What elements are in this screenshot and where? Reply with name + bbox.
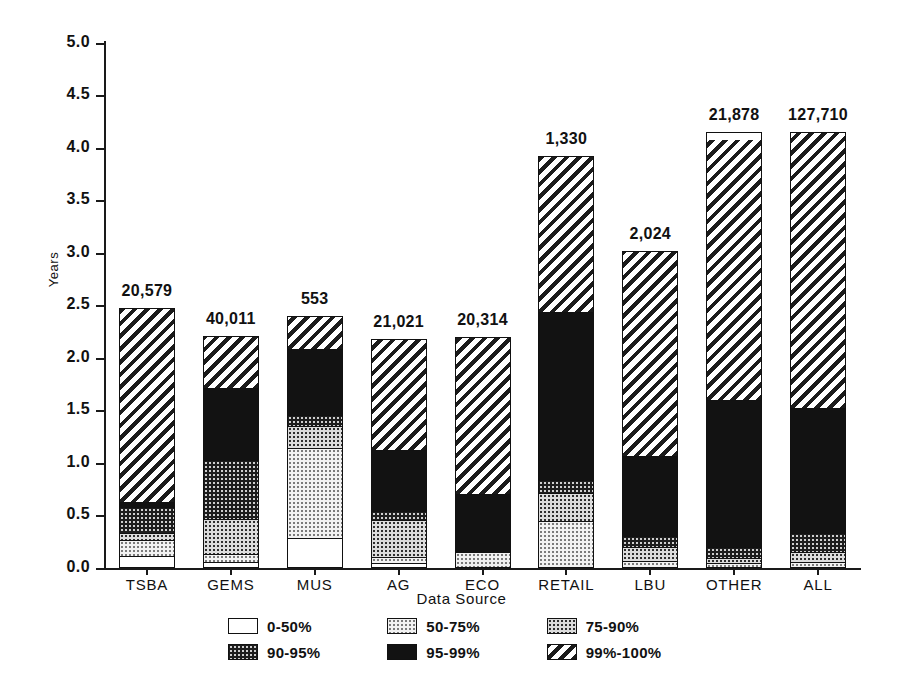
y-tick-label: 2.0 [44, 349, 90, 365]
y-tick: 0.5 [0, 515, 105, 516]
bar-segment-90to95 [791, 534, 845, 554]
bar-value-label: 1,330 [506, 130, 626, 148]
y-tick-label: 4.5 [44, 86, 90, 102]
y-tick: 4.5 [0, 95, 105, 96]
bar-segment-75to90 [372, 521, 426, 557]
legend-label: 0-50% [267, 618, 312, 635]
bar-segment-75to90 [623, 548, 677, 562]
y-tick-mark [96, 358, 105, 360]
bar-segment-95to99 [791, 409, 845, 533]
bar-segment-95to99 [707, 401, 761, 548]
bar-all [790, 132, 846, 568]
bar-segment-95to99 [372, 451, 426, 511]
bar-segment-90to95 [707, 548, 761, 559]
bar-value-label: 20,314 [423, 311, 543, 329]
bar-value-label: 553 [255, 290, 375, 308]
legend-item: 99%-100% [547, 640, 698, 664]
legend-item: 50-75% [387, 614, 538, 638]
y-tick-label: 3.5 [44, 191, 90, 207]
y-tick-mark [96, 305, 105, 307]
bar-segment-99to100 [539, 157, 593, 313]
bar-segment-0to50 [120, 557, 174, 567]
bar-segment-50to75 [204, 555, 258, 563]
y-tick: 3.5 [0, 200, 105, 201]
bar-tsba [119, 308, 175, 568]
bar-segment-90to95 [204, 461, 258, 520]
legend-label: 75-90% [586, 618, 640, 635]
bar-eco [455, 337, 511, 568]
bar-lbu [622, 251, 678, 568]
y-tick-label: 0.5 [44, 506, 90, 522]
bar-ag [371, 339, 427, 568]
legend-swatch-solid [387, 644, 417, 660]
legend-item: 75-90% [547, 614, 698, 638]
legend-item: 95-99% [387, 640, 538, 664]
y-tick-mark [96, 43, 105, 45]
bar-segment-95to99 [623, 457, 677, 536]
legend-label: 95-99% [426, 644, 480, 661]
bar-segment-90to95 [372, 512, 426, 521]
bar-segment-0to50 [204, 563, 258, 567]
bar-segment-99to100 [791, 133, 845, 409]
bar-segment-95to99 [456, 495, 510, 553]
legend-label: 99%-100% [586, 644, 662, 661]
legend-item: 0-50% [228, 614, 379, 638]
y-tick: 0.0 [0, 568, 105, 569]
bar-segment-0to50 [372, 564, 426, 567]
bar-segment-75to90 [120, 534, 174, 541]
y-tick: 1.5 [0, 410, 105, 411]
y-tick-mark [96, 253, 105, 255]
y-tick-label: 4.0 [44, 139, 90, 155]
bar-segment-50to75 [707, 564, 761, 567]
y-tick-mark [96, 463, 105, 465]
y-tick-label: 0.0 [44, 559, 90, 575]
bar-mus [287, 316, 343, 568]
bar-segment-75to90 [539, 494, 593, 522]
bar-segment-50to75 [623, 562, 677, 567]
bar-value-label: 127,710 [758, 106, 878, 124]
y-tick: 5.0 [0, 43, 105, 44]
x-tick-label-all: ALL [758, 576, 878, 593]
y-tick-mark [96, 95, 105, 97]
bar-segment-75to90 [288, 427, 342, 449]
y-tick: 1.0 [0, 463, 105, 464]
y-tick: 2.0 [0, 358, 105, 359]
bar-segment-50to75 [120, 541, 174, 557]
bar-segment-50to75 [456, 553, 510, 567]
bar-segment-0to50 [288, 539, 342, 567]
legend-swatch-hatch [547, 644, 577, 660]
y-tick: 4.0 [0, 148, 105, 149]
bar-retail [538, 156, 594, 568]
legend-label: 50-75% [426, 618, 480, 635]
y-tick-label: 1.0 [44, 454, 90, 470]
bar-segment-99to100 [372, 340, 426, 451]
bar-segment-99to100 [707, 140, 761, 401]
bar-segment-95to99 [288, 350, 342, 416]
bar-segment-99to100 [456, 338, 510, 495]
legend-swatch-white [228, 618, 258, 634]
bar-segment-50to75 [791, 563, 845, 567]
y-tick-label: 5.0 [44, 34, 90, 50]
bar-segment-50to75 [539, 522, 593, 567]
legend-label: 90-95% [267, 644, 321, 661]
bar-value-label: 40,011 [171, 310, 291, 328]
bar-gems [203, 336, 259, 568]
bar-segment-90to95 [623, 537, 677, 548]
bar-segment-99to100 [204, 337, 258, 389]
legend-swatch-darkdot [228, 644, 258, 660]
legend-item: 90-95% [228, 640, 379, 664]
bar-segment-75to90 [791, 553, 845, 562]
chart-legend: 0-50%50-75%75-90%90-95%95-99%99%-100% [228, 614, 698, 664]
y-tick-mark [96, 568, 105, 570]
y-tick-mark [96, 515, 105, 517]
bar-chart: 0.00.51.01.52.02.53.03.54.04.55.0 Years … [0, 0, 923, 695]
bar-segment-90to95 [288, 416, 342, 427]
legend-swatch-meddot [547, 618, 577, 634]
bar-other [706, 132, 762, 568]
bar-segment-99to100 [288, 317, 342, 350]
y-tick-mark [96, 410, 105, 412]
bar-segment-95to99 [539, 313, 593, 481]
y-tick-mark [96, 148, 105, 150]
y-tick-mark [96, 200, 105, 202]
bar-value-label: 2,024 [590, 225, 710, 243]
